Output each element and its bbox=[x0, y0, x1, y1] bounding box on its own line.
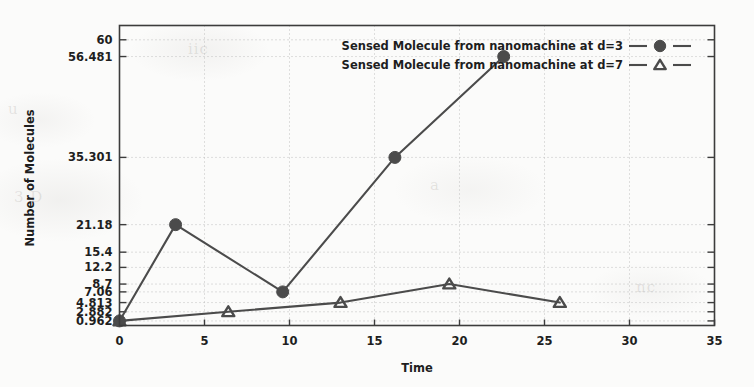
triangle-marker bbox=[654, 60, 665, 69]
tick-labels-group: 051015202530356056.48135.30121.1815.412.… bbox=[68, 33, 722, 348]
x-tick-label: 0 bbox=[115, 334, 123, 348]
circle-marker bbox=[389, 151, 401, 163]
x-tick-label: 25 bbox=[536, 334, 552, 348]
series-2 bbox=[113, 279, 565, 326]
y-tick-label: 0.962 bbox=[76, 314, 112, 328]
legend-entry: Sensed Molecule from nanomachine at d=7 bbox=[342, 58, 691, 72]
x-tick-label: 20 bbox=[451, 334, 467, 348]
data-series-group bbox=[113, 51, 565, 327]
series-line bbox=[120, 57, 504, 321]
legend-group: Sensed Molecule from nanomachine at d=3S… bbox=[342, 39, 691, 72]
y-tick-label: 15.4 bbox=[84, 245, 112, 259]
y-axis-label: Number of Molecules bbox=[23, 109, 37, 246]
y-tick-label: 21.18 bbox=[76, 218, 112, 232]
circle-marker bbox=[277, 286, 289, 298]
y-tick-label: 12.2 bbox=[84, 260, 112, 274]
x-tick-label: 15 bbox=[366, 334, 382, 348]
chart-figure: 3 D iic a nc u 051015202530356056.48135.… bbox=[0, 0, 754, 387]
legend-entry: Sensed Molecule from nanomachine at d=3 bbox=[342, 39, 691, 53]
series-1 bbox=[114, 51, 510, 327]
series-line bbox=[120, 284, 560, 321]
legend-label: Sensed Molecule from nanomachine at d=7 bbox=[342, 58, 623, 72]
circle-marker bbox=[654, 40, 665, 51]
y-tick-label: 60 bbox=[96, 33, 112, 47]
x-tick-label: 10 bbox=[281, 334, 297, 348]
y-tick-label: 56.481 bbox=[68, 50, 112, 64]
legend-label: Sensed Molecule from nanomachine at d=3 bbox=[342, 39, 623, 53]
x-tick-label: 30 bbox=[621, 334, 637, 348]
line-chart-plot: 051015202530356056.48135.30121.1815.412.… bbox=[0, 0, 754, 387]
y-tick-marks-group bbox=[120, 40, 715, 321]
x-axis-label: Time bbox=[401, 361, 433, 375]
circle-marker bbox=[170, 219, 182, 231]
x-tick-marks-group bbox=[120, 320, 715, 326]
x-tick-label: 5 bbox=[200, 334, 208, 348]
y-tick-label: 35.301 bbox=[68, 150, 112, 164]
x-tick-label: 35 bbox=[706, 334, 722, 348]
